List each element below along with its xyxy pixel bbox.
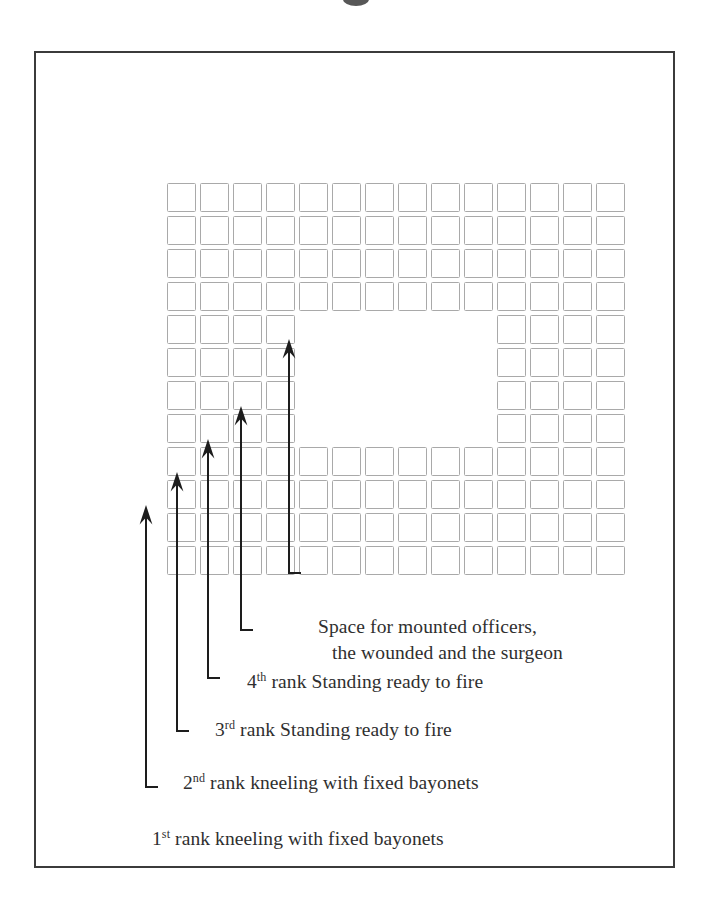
label-line-1: Space for mounted officers, — [318, 616, 537, 637]
soldier-cell — [596, 381, 625, 410]
arrow-center-space — [281, 339, 297, 564]
label-ordinal: 3 — [215, 719, 225, 740]
arrow-rank-4 — [233, 406, 249, 613]
soldier-cell — [497, 282, 526, 311]
soldier-cell — [398, 480, 427, 509]
soldier-cell — [497, 315, 526, 344]
soldier-cell — [596, 546, 625, 575]
soldier-cell — [398, 282, 427, 311]
label-rank-1: 1st rank kneeling with fixed bayonets — [152, 826, 444, 852]
bracket-elbow — [207, 677, 220, 679]
label-text: rank kneeling with fixed bayonets — [205, 772, 479, 793]
soldier-cell — [299, 480, 328, 509]
label-line-2: the wounded and the surgeon — [318, 640, 563, 666]
soldier-cell — [332, 480, 361, 509]
bracket-rank-4 — [240, 613, 254, 631]
soldier-cell — [233, 315, 262, 344]
label-ordinal-suffix: nd — [193, 771, 205, 785]
arrow-shaft — [145, 515, 147, 770]
soldier-cell — [365, 447, 394, 476]
soldier-cell — [530, 282, 559, 311]
soldier-cell — [596, 513, 625, 542]
soldier-cell — [365, 216, 394, 245]
soldier-cell — [299, 249, 328, 278]
arrow-shaft — [240, 416, 242, 613]
soldier-cell — [530, 183, 559, 212]
soldier-cell — [497, 249, 526, 278]
arrow-rank-2 — [169, 472, 185, 714]
soldier-cell — [497, 183, 526, 212]
soldier-cell — [530, 249, 559, 278]
soldier-cell — [596, 348, 625, 377]
soldier-cell — [563, 480, 592, 509]
soldier-cell — [530, 447, 559, 476]
soldier-cell — [200, 348, 229, 377]
soldier-cell — [167, 381, 196, 410]
soldier-cell — [233, 282, 262, 311]
soldier-cell — [365, 546, 394, 575]
label-text: rank Standing ready to fire — [266, 671, 483, 692]
soldier-cell — [563, 249, 592, 278]
soldier-cell — [332, 447, 361, 476]
soldier-cell — [497, 414, 526, 443]
bracket-elbow — [145, 786, 158, 788]
bracket-space-for-mounted-officers — [288, 564, 302, 574]
soldier-cell — [233, 348, 262, 377]
arrow-shaft — [176, 482, 178, 714]
label-rank-3: 3rd rank Standing ready to fire — [215, 717, 452, 743]
soldier-cell — [200, 183, 229, 212]
soldier-cell — [200, 315, 229, 344]
arrow-shaft — [288, 349, 290, 564]
grid-row — [167, 348, 619, 381]
soldier-cell — [464, 183, 493, 212]
soldier-cell — [497, 381, 526, 410]
soldier-cell — [497, 480, 526, 509]
soldier-cell — [398, 513, 427, 542]
soldier-cell — [497, 447, 526, 476]
soldier-cell — [365, 282, 394, 311]
soldier-cell — [563, 546, 592, 575]
soldier-cell — [365, 249, 394, 278]
soldier-cell — [563, 447, 592, 476]
bracket-elbow — [288, 572, 301, 574]
soldier-cell — [563, 348, 592, 377]
soldier-cell — [332, 513, 361, 542]
soldier-cell — [167, 216, 196, 245]
grid-row — [167, 249, 619, 282]
soldier-cell — [431, 282, 460, 311]
soldier-cell — [464, 447, 493, 476]
soldier-cell — [200, 381, 229, 410]
soldier-cell — [365, 183, 394, 212]
soldier-cell — [464, 282, 493, 311]
soldier-cell — [332, 249, 361, 278]
soldier-cell — [530, 513, 559, 542]
soldier-cell — [167, 348, 196, 377]
soldier-cell — [530, 315, 559, 344]
label-rank-2: 2nd rank kneeling with fixed bayonets — [183, 770, 479, 796]
soldier-cell — [530, 546, 559, 575]
soldier-cell — [596, 282, 625, 311]
soldier-cell — [398, 249, 427, 278]
soldier-cell — [563, 315, 592, 344]
soldier-cell — [596, 315, 625, 344]
soldier-cell — [266, 216, 295, 245]
soldier-cell — [530, 348, 559, 377]
soldier-cell — [167, 315, 196, 344]
soldier-cell — [431, 183, 460, 212]
bracket-rank-2 — [176, 714, 190, 732]
soldier-cell — [167, 282, 196, 311]
soldier-cell — [497, 216, 526, 245]
grid-row — [167, 216, 619, 249]
soldier-cell — [167, 414, 196, 443]
soldier-cell — [332, 282, 361, 311]
soldier-cell — [596, 216, 625, 245]
soldier-cell — [530, 480, 559, 509]
soldier-cell — [233, 216, 262, 245]
grid-row — [167, 183, 619, 216]
soldier-cell — [431, 513, 460, 542]
soldier-cell — [530, 216, 559, 245]
soldier-cell — [464, 216, 493, 245]
soldier-cell — [563, 513, 592, 542]
soldier-cell — [596, 480, 625, 509]
soldier-cell — [497, 546, 526, 575]
